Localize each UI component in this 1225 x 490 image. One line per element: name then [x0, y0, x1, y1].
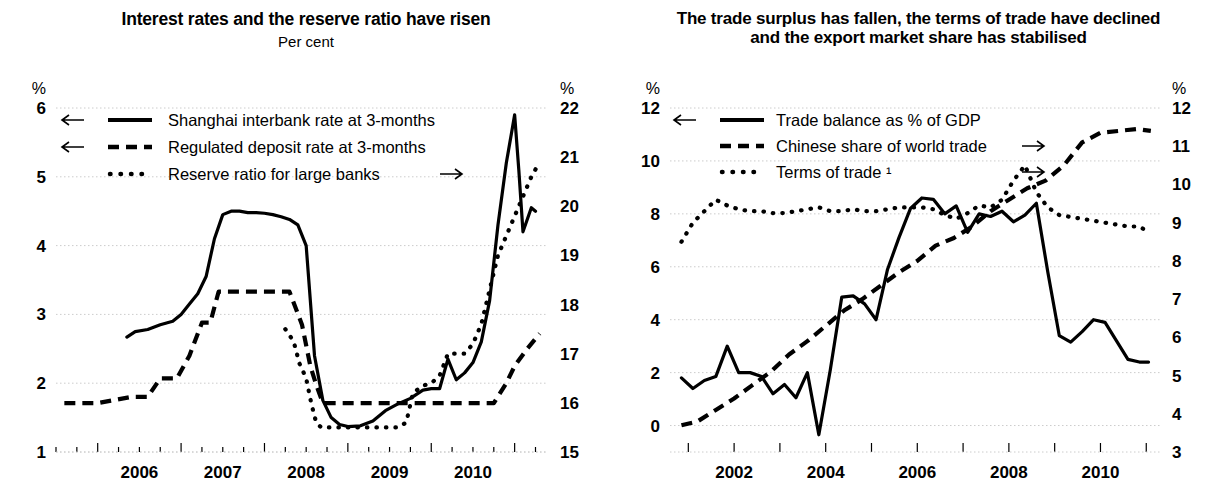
- x-axis-tick-label: 2008: [287, 463, 325, 482]
- y-axis-tick-label-right: 8: [1172, 252, 1181, 271]
- legend-label: Shanghai interbank rate at 3-months: [168, 111, 435, 129]
- y-axis-tick-label-left: 4: [651, 311, 661, 330]
- y-axis-tick-label-right: 17: [560, 345, 579, 364]
- legend-arrow-right-icon: [1022, 141, 1044, 151]
- legend-label: Reserve ratio for large banks: [168, 165, 380, 183]
- y-axis-tick-label-left: 10: [641, 152, 660, 171]
- y-axis-tick-label-left: 3: [37, 305, 46, 324]
- y-axis-tick-label-right: 15: [560, 443, 579, 462]
- legend-arrow-right-icon: [440, 169, 462, 179]
- y-axis-unit-left: %: [646, 80, 660, 97]
- y-axis-tick-label-left: 6: [37, 99, 46, 118]
- y-axis-tick-label-right: 10: [1172, 175, 1191, 194]
- y-axis-tick-label-left: 0: [651, 417, 660, 436]
- panel-interest-rates: Interest rates and the reserve ratio hav…: [0, 0, 612, 490]
- y-axis-tick-label-left: 8: [651, 205, 660, 224]
- series-line-solid: [127, 115, 536, 427]
- y-axis-tick-label-right: 7: [1172, 290, 1181, 309]
- legend-arrow-left-icon: [62, 142, 84, 152]
- y-axis-tick-label-right: 19: [560, 246, 579, 265]
- figure-two-panel: Interest rates and the reserve ratio hav…: [0, 0, 1225, 490]
- chart-interest-rates: 1234561516171819202122%%2006200720082009…: [0, 0, 612, 490]
- y-axis-unit-right: %: [560, 80, 574, 97]
- y-axis-tick-label-right: 12: [1172, 99, 1191, 118]
- chart-svg-left: 1234561516171819202122%%2006200720082009…: [0, 0, 612, 490]
- chart-trade: 0246810123456789101112%%2002200420062008…: [612, 0, 1225, 490]
- series-line-solid: [681, 198, 1148, 435]
- legend-label: Regulated deposit rate at 3-months: [168, 138, 426, 156]
- y-axis-unit-left: %: [32, 80, 46, 97]
- x-axis-tick-label: 2002: [715, 463, 753, 482]
- x-axis-tick-label: 2006: [120, 463, 158, 482]
- legend-arrow-left-icon: [674, 115, 696, 125]
- y-axis-tick-label-right: 3: [1172, 443, 1181, 462]
- y-axis-tick-label-left: 4: [37, 237, 47, 256]
- y-axis-tick-label-right: 18: [560, 296, 579, 315]
- x-axis-tick-label: 2006: [898, 463, 936, 482]
- x-axis-tick-label: 2008: [990, 463, 1028, 482]
- y-axis-tick-label-right: 11: [1172, 137, 1190, 156]
- x-axis-tick-label: 2010: [454, 463, 492, 482]
- legend-label: Trade balance as % of GDP: [776, 111, 981, 129]
- y-axis-tick-label-left: 6: [651, 258, 660, 277]
- x-axis-tick-label: 2004: [807, 463, 845, 482]
- panel-trade: The trade surplus has fallen, the terms …: [612, 0, 1225, 490]
- y-axis-tick-label-right: 22: [560, 99, 579, 118]
- y-axis-tick-label-right: 20: [560, 197, 579, 216]
- y-axis-tick-label-right: 16: [560, 394, 579, 413]
- y-axis-tick-label-left: 2: [37, 374, 46, 393]
- x-axis-tick-label: 2009: [371, 463, 409, 482]
- y-axis-tick-label-right: 6: [1172, 328, 1181, 347]
- y-axis-tick-label-right: 4: [1172, 405, 1182, 424]
- chart-svg-right: 0246810123456789101112%%2002200420062008…: [612, 0, 1225, 490]
- y-axis-tick-label-right: 21: [560, 148, 579, 167]
- legend-label: Chinese share of world trade: [776, 137, 987, 155]
- x-axis-tick-label: 2010: [1082, 463, 1120, 482]
- legend-arrow-left-icon: [62, 115, 84, 125]
- y-axis-tick-label-left: 5: [37, 168, 46, 187]
- x-axis-tick-label: 2007: [204, 463, 242, 482]
- y-axis-tick-label-right: 9: [1172, 214, 1181, 233]
- y-axis-tick-label-left: 2: [651, 364, 660, 383]
- legend-label: Terms of trade ¹: [776, 163, 892, 181]
- y-axis-tick-label-right: 5: [1172, 367, 1181, 386]
- y-axis-tick-label-left: 1: [37, 443, 46, 462]
- y-axis-tick-label-left: 12: [641, 99, 660, 118]
- y-axis-unit-right: %: [1172, 80, 1186, 97]
